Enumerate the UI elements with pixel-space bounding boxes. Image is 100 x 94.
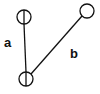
edge-b-line	[31, 16, 82, 74]
node-top-right	[80, 4, 94, 18]
diagram-svg	[0, 0, 100, 94]
edge-a-line	[24, 24, 26, 72]
diagram-canvas: a b	[0, 0, 100, 94]
node-top-left	[17, 10, 31, 24]
edge-a-label: a	[4, 36, 11, 49]
node-bottom	[19, 72, 33, 86]
edge-b-label: b	[70, 47, 78, 60]
